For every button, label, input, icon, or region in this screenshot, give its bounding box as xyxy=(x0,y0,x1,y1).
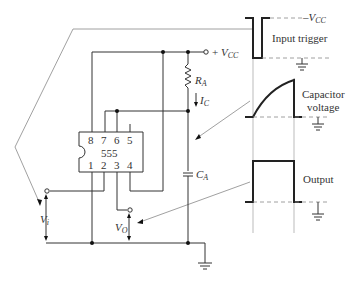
pin-1-label: 1 xyxy=(88,159,94,171)
input-trigger-label: Input trigger xyxy=(272,32,328,44)
ic-name: 555 xyxy=(101,147,118,159)
current-label: IC xyxy=(199,94,210,108)
pin-5-label: 5 xyxy=(127,134,133,146)
pin-2-label: 2 xyxy=(101,159,107,171)
resistor-label: RA xyxy=(194,74,207,88)
capacitor-label: CA xyxy=(196,168,208,182)
ic-555: 8 7 6 5 555 1 2 3 4 xyxy=(79,132,143,172)
pin-8-label: 8 xyxy=(88,134,94,146)
vcc-level-label: –VCC xyxy=(302,11,327,25)
pin-6-label: 6 xyxy=(114,134,120,146)
vo-arrow xyxy=(127,213,131,241)
vo-label: VO xyxy=(115,221,128,235)
capacitor-voltage-label-2: voltage xyxy=(307,101,339,113)
terminals xyxy=(45,50,208,212)
output-leader-line xyxy=(137,182,250,224)
ic-current-arrow xyxy=(194,93,198,107)
vi-label: Vi xyxy=(40,213,49,227)
waveforms xyxy=(245,18,330,233)
capacitor-voltage-label-1: Capacitor xyxy=(302,88,345,100)
pin-4-label: 4 xyxy=(127,159,133,171)
output-waveform-label: Output xyxy=(303,173,334,185)
supply-label: + VCC xyxy=(212,46,239,60)
pin-7-label: 7 xyxy=(101,134,107,146)
pin-3-label: 3 xyxy=(114,159,120,171)
circuit-diagram: 8 7 6 5 555 1 2 3 4 + VCC RA IC CA Vi VO xyxy=(0,0,352,283)
